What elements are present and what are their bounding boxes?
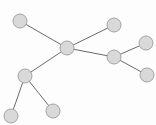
graph-node-n1 <box>13 14 27 28</box>
nodes-layer <box>4 14 154 123</box>
network-graph <box>0 0 156 125</box>
graph-node-n2 <box>60 41 74 55</box>
graph-node-n6 <box>140 68 154 82</box>
graph-node-n7 <box>18 69 32 83</box>
edges-layer <box>11 21 147 116</box>
edge-n2-n7 <box>25 48 67 76</box>
edge-n1-n2 <box>20 21 67 48</box>
graph-node-n3 <box>107 18 121 32</box>
graph-node-n4 <box>107 50 121 64</box>
edge-n2-n3 <box>67 25 114 48</box>
graph-node-n8 <box>4 109 18 123</box>
graph-node-n9 <box>46 104 60 118</box>
graph-node-n5 <box>139 36 153 50</box>
